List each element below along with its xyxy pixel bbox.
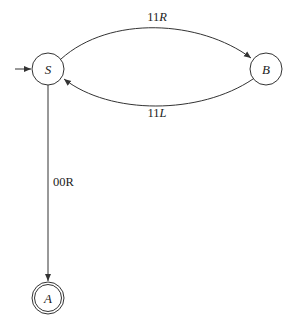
state-s[interactable]: S: [32, 53, 64, 85]
state-a[interactable]: A: [32, 282, 64, 314]
state-b[interactable]: B: [250, 53, 282, 85]
state-diagram: S B A 11R 11L 00R: [0, 0, 297, 332]
transition-b-to-s[interactable]: [64, 79, 253, 106]
transition-s-to-b-label: 11R: [147, 10, 167, 24]
transition-s-to-a-label: 00R: [53, 175, 75, 189]
state-a-label: A: [43, 291, 52, 306]
transition-s-to-b[interactable]: [61, 28, 251, 59]
state-s-label: S: [45, 62, 52, 77]
transition-b-to-s-label: 11L: [148, 106, 167, 120]
state-b-label: B: [262, 62, 270, 77]
